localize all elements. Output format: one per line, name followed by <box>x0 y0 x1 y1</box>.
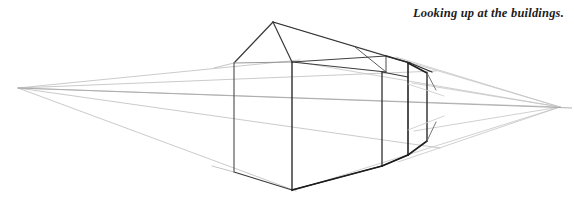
near-building-roof <box>234 22 410 72</box>
construction-line-rvp-base <box>292 107 560 191</box>
far-building-guide-lower <box>408 116 444 130</box>
near-building-left-base <box>234 172 292 190</box>
construction-line-lvp-base <box>18 88 296 191</box>
roof-eave-to-right <box>292 62 386 72</box>
caption-text: Looking up at the buildings. <box>413 6 564 21</box>
roof-ridge-to-right <box>273 22 386 56</box>
horizon-line <box>18 88 572 108</box>
construction-lines-right-vp <box>273 22 560 191</box>
far-building-edge-taper-top <box>427 73 436 90</box>
construction-lines-left-vp <box>18 60 560 191</box>
construction-line-lvp-eave <box>18 71 436 88</box>
perspective-drawing <box>0 0 574 203</box>
construction-line-lvp-far-base <box>18 88 440 148</box>
far-building <box>408 63 444 155</box>
drawing-page: Looking up at the buildings. <box>0 0 574 203</box>
mid-building <box>382 72 408 166</box>
roof-eave-top-line <box>234 62 292 63</box>
construction-line-rvp-lower <box>398 107 560 162</box>
construction-line-lvp-top-ridge <box>18 60 300 88</box>
far-building-edge-taper-bottom <box>427 122 436 141</box>
roof-gable-right-slope <box>273 22 292 62</box>
construction-line-rvp-upper <box>396 57 560 107</box>
roof-gable-left-slope <box>234 22 273 63</box>
